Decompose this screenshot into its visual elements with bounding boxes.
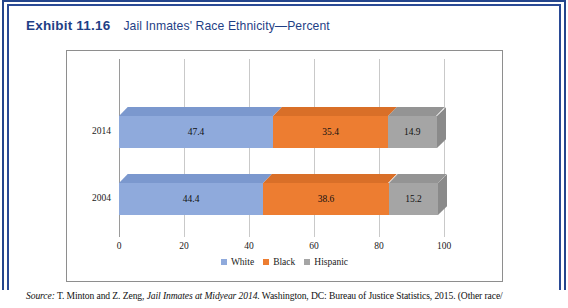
bar-end-cap bbox=[438, 174, 447, 215]
bar-segment-white-2014: 47.4 bbox=[119, 107, 273, 148]
bar-segment-white-2004: 44.4 bbox=[119, 174, 263, 215]
bar-value-label: 44.4 bbox=[119, 183, 263, 215]
bar-top-face bbox=[263, 174, 397, 183]
plot-area: 020406080100201447.435.414.9200444.438.6… bbox=[67, 51, 502, 281]
y-axis-category-label: 2004 bbox=[71, 193, 111, 203]
y-axis-category-label: 2014 bbox=[71, 126, 111, 136]
source-note: Source: T. Minton and Z. Zeng, Jail Inma… bbox=[26, 290, 542, 301]
x-axis-tick-label: 80 bbox=[364, 241, 394, 251]
legend-label: White bbox=[231, 257, 254, 267]
exhibit-label: Exhibit 11.16 bbox=[26, 18, 110, 33]
exhibit-title: Jail Inmates' Race Ethnicity—Percent bbox=[123, 19, 329, 33]
legend-label: Black bbox=[273, 257, 295, 267]
legend-swatch-icon bbox=[263, 259, 269, 265]
x-axis-tick-label: 60 bbox=[299, 241, 329, 251]
legend-item-hispanic[interactable]: Hispanic bbox=[304, 257, 348, 267]
x-axis-tick-label: 40 bbox=[234, 241, 264, 251]
bar-value-label: 47.4 bbox=[119, 116, 273, 148]
legend-item-black[interactable]: Black bbox=[263, 257, 295, 267]
source-authors: T. Minton and Z. Zeng, bbox=[55, 290, 147, 301]
bar-top-face bbox=[119, 107, 282, 116]
source-prefix: Source: bbox=[26, 290, 55, 301]
gridline-100 bbox=[444, 59, 445, 237]
bar-top-face bbox=[273, 107, 397, 116]
chart-legend: WhiteBlackHispanic bbox=[67, 257, 502, 267]
bar-value-label: 15.2 bbox=[389, 183, 438, 215]
bar-value-label: 14.9 bbox=[388, 116, 436, 148]
legend-label: Hispanic bbox=[314, 257, 348, 267]
legend-swatch-icon bbox=[304, 259, 310, 265]
bar-value-label: 38.6 bbox=[263, 183, 388, 215]
source-publication: . Washington, DC: Bureau of Justice Stat… bbox=[257, 290, 502, 301]
bar-value-label: 35.4 bbox=[273, 116, 388, 148]
bar-segment-black-2014: 35.4 bbox=[273, 107, 388, 148]
bar-segment-hispanic-2014: 14.9 bbox=[388, 107, 436, 148]
bar-segment-hispanic-2004: 15.2 bbox=[389, 174, 438, 215]
bar-segment-black-2004: 38.6 bbox=[263, 174, 388, 215]
legend-swatch-icon bbox=[221, 259, 227, 265]
x-axis-tick-label: 0 bbox=[104, 241, 134, 251]
bar-top-face bbox=[119, 174, 272, 183]
source-work-title: Jail Inmates at Midyear 2014 bbox=[147, 290, 258, 301]
chart-container: 020406080100201447.435.414.9200444.438.6… bbox=[66, 50, 503, 282]
x-axis-tick-label: 100 bbox=[429, 241, 459, 251]
exhibit-header: Exhibit 11.16Jail Inmates' Race Ethnicit… bbox=[26, 16, 330, 34]
legend-item-white[interactable]: White bbox=[221, 257, 254, 267]
x-axis-tick-label: 20 bbox=[169, 241, 199, 251]
